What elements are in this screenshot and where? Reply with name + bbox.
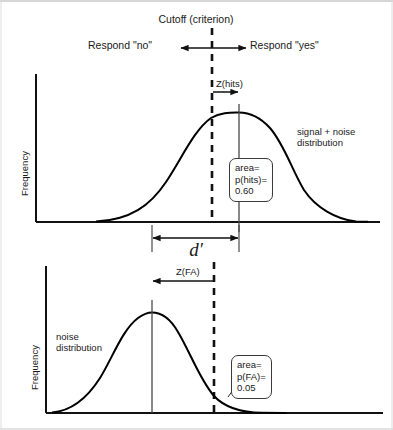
p-fa-callout: area= p(FA)= 0.05 — [231, 355, 272, 399]
z-hits-label: Z(hits) — [216, 79, 243, 90]
noise-distribution-label: noise distribution — [56, 332, 102, 353]
signal-plus-noise-distribution-label: signal + noise distribution — [297, 127, 355, 148]
p-hits-callout: area= p(hits)= 0.60 — [229, 158, 273, 202]
respond-yes-label: Respond "yes" — [250, 40, 319, 52]
sdt-diagram: Cutoff (criterion) Respond "no" Respond … — [0, 0, 393, 430]
cutoff-criterion-label: Cutoff (criterion) — [158, 14, 233, 26]
diagram-canvas — [0, 0, 393, 430]
d-prime-label: d′ — [189, 239, 203, 260]
z-fa-label: Z(FA) — [176, 267, 200, 278]
respond-no-label: Respond "no" — [88, 40, 152, 52]
top-y-axis-label: Frequency — [19, 151, 30, 196]
bottom-y-axis-label: Frequency — [29, 345, 40, 390]
